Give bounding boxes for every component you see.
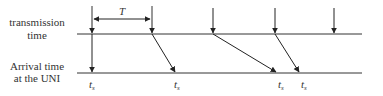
period-label: T xyxy=(119,5,126,17)
arrival-arrow-4 xyxy=(275,34,299,72)
arrival-label-3: ts xyxy=(278,78,284,92)
transmission-time-label-line2: time xyxy=(27,29,47,41)
timing-diagram: transmission time Arrival time at the UN… xyxy=(0,0,383,96)
transmission-time-label-line1: transmission xyxy=(9,16,65,28)
arrival-label-4: ts xyxy=(301,78,307,92)
arrival-label-1: ts xyxy=(89,78,95,92)
arrival-arrow-2 xyxy=(152,34,175,72)
arrival-time-label-line1: Arrival time xyxy=(10,60,64,72)
arrival-label-2: ts xyxy=(174,78,180,92)
arrival-time-label-line2: at the UNI xyxy=(14,72,61,84)
arrival-arrow-3 xyxy=(213,34,276,72)
